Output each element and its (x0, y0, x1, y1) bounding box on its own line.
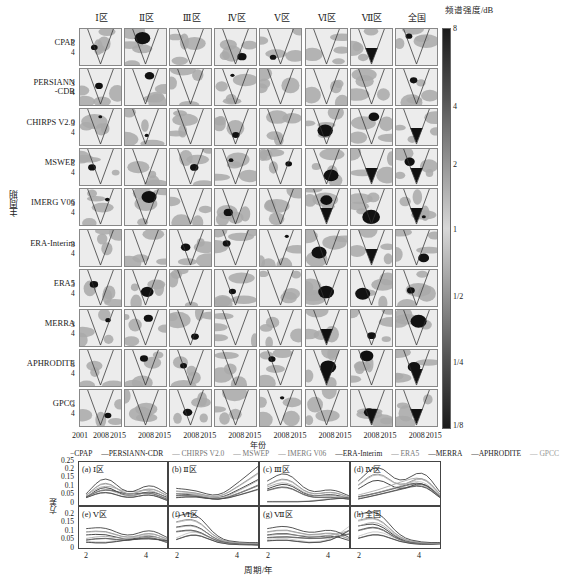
x-tick: 2 (84, 551, 88, 560)
heatmap-cell (395, 68, 438, 106)
x-tick: 2008 (409, 431, 425, 440)
heatmap-cell (350, 309, 393, 347)
x-tick: 4 (417, 551, 421, 560)
heatmap-cell (124, 108, 167, 146)
heatmap-cell (79, 269, 122, 307)
legend-item: — CHIRPS V2.0 (172, 449, 224, 458)
x-tick: 2008 (228, 431, 244, 440)
heatmap-cell (79, 108, 122, 146)
heatmap-cell (214, 28, 257, 66)
colorbar-tick: 2 (453, 160, 457, 169)
column-header: Ⅰ区 (79, 11, 124, 24)
column-header: Ⅵ区 (305, 11, 350, 24)
y-tick: 4 (71, 128, 75, 137)
heatmap-cell (259, 188, 302, 226)
heatmap-cell (395, 269, 438, 307)
heatmap-cell (169, 28, 212, 66)
x-tick: 2015 (110, 431, 126, 440)
heatmap-cell (305, 349, 348, 387)
heatmap-cell (124, 229, 167, 267)
y-tick: 3 (71, 119, 75, 128)
heatmap-cell (79, 28, 122, 66)
x-tick: 2008 (319, 431, 335, 440)
x-tick: 2015 (426, 431, 442, 440)
legend-item: —MERRA (428, 449, 462, 458)
heatmap-cell (259, 389, 302, 427)
y-tick: 4 (71, 88, 75, 97)
x-tick: 4 (144, 551, 148, 560)
line-panel: (g) Ⅶ区 (259, 506, 350, 549)
heatmap-cell (350, 148, 393, 186)
column-header: Ⅴ区 (259, 11, 304, 24)
heatmap-cell (79, 148, 122, 186)
heatmap-cell (395, 309, 438, 347)
heatmap-cell (395, 229, 438, 267)
line-panel: (a) Ⅰ区 (78, 461, 168, 506)
x-tick: 2 (175, 551, 179, 560)
heatmap-cell (395, 148, 438, 186)
heatmap-cell (214, 389, 257, 427)
y-tick: 4 (71, 208, 75, 217)
heatmap-cell (259, 309, 302, 347)
colorbar-tick: 1/8 (453, 421, 463, 430)
heatmap-cell (305, 28, 348, 66)
x-tick: 2008 (183, 431, 199, 440)
line-panel: (d) Ⅳ区 (350, 461, 441, 506)
heatmap-cell (79, 188, 122, 226)
heatmap-cell (395, 108, 438, 146)
heatmap-cell (350, 188, 393, 226)
heatmap-cell (214, 269, 257, 307)
y-tick: 0.05 (50, 489, 74, 498)
heatmap-cell (169, 309, 212, 347)
y-tick: 3 (71, 199, 75, 208)
y-tick: 4 (71, 249, 75, 258)
y-tick: 4 (71, 409, 75, 418)
heatmap-cell (259, 108, 302, 146)
line-panel: (e) Ⅴ区 (78, 506, 168, 549)
heatmap-ylabel: 主周期 (6, 190, 19, 217)
heatmap-cell (79, 389, 122, 427)
y-tick: 4 (71, 289, 75, 298)
heatmap-cell (305, 108, 348, 146)
heatmap-cell (169, 148, 212, 186)
heatmap-cell (305, 309, 348, 347)
panel-title: (d) Ⅳ区 (354, 463, 381, 474)
heatmap-cell (214, 188, 257, 226)
x-tick: 2008 (273, 431, 289, 440)
line-panel: (c) Ⅲ区 (259, 461, 350, 506)
x-tick: 2 (357, 551, 361, 560)
panel-title: (c) Ⅲ区 (263, 463, 290, 474)
x-tick: 2015 (200, 431, 216, 440)
heatmap-cell (124, 349, 167, 387)
x-tick: 2008 (138, 431, 154, 440)
y-tick: 0.15 (50, 517, 74, 526)
line-panel: (f) Ⅵ区 (168, 506, 259, 549)
heatmap-cell (124, 148, 167, 186)
heatmap-cell (350, 68, 393, 106)
heatmap-cell (169, 269, 212, 307)
heatmap-cell (350, 28, 393, 66)
heatmap-cell (395, 28, 438, 66)
row-label: ERA-Interim (30, 239, 75, 248)
y-tick: 3 (71, 280, 75, 289)
y-tick: 3 (71, 159, 75, 168)
panel-title: (a) Ⅰ区 (82, 463, 104, 474)
heatmap-cell (259, 68, 302, 106)
y-tick: 4 (71, 48, 75, 57)
heatmap-cell (79, 229, 122, 267)
x-tick: 2 (266, 551, 270, 560)
x-tick: 2015 (336, 431, 352, 440)
row-label: IMERG V06 (31, 198, 75, 207)
legend-item: —PERSIANN-CDR (101, 449, 163, 458)
panel-title: (e) Ⅴ区 (82, 508, 107, 519)
heatmap-cell (350, 229, 393, 267)
heatmap-cell (305, 389, 348, 427)
legend-item: —APHRODITE (471, 449, 521, 458)
heatmap-cell (214, 108, 257, 146)
y-tick: 4 (71, 329, 75, 338)
heatmap-cell (214, 148, 257, 186)
heatmap-cell (169, 349, 212, 387)
x-tick: 2008 (93, 431, 109, 440)
heatmap-cell (214, 349, 257, 387)
heatmap-cell (169, 68, 212, 106)
